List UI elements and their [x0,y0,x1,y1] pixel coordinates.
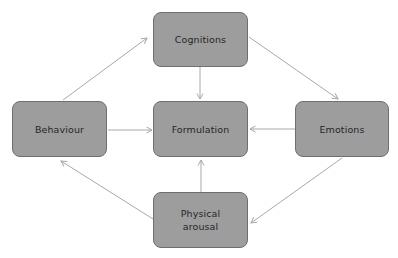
node-physical-arousal-line1: Physical [181,207,220,220]
node-physical-arousal: Physical arousal [153,192,248,248]
arrow-behaviour-to-cognitions [63,38,147,100]
node-formulation: Formulation [153,101,248,157]
node-behaviour-label: Behaviour [35,123,84,136]
node-emotions: Emotions [295,101,389,157]
node-cognitions-label: Cognitions [175,33,226,46]
node-formulation-label: Formulation [172,123,230,136]
node-emotions-label: Emotions [319,123,364,136]
node-physical-arousal-line2: arousal [183,220,218,233]
arrow-cognitions-to-emotions [249,37,338,99]
arrow-emotions-to-physical-arousal [251,158,342,223]
node-behaviour: Behaviour [12,101,107,157]
node-cognitions: Cognitions [153,12,248,67]
arrow-physical-arousal-to-behaviour [61,161,153,219]
formulation-diagram: Cognitions Behaviour Formulation Emotion… [0,0,398,258]
